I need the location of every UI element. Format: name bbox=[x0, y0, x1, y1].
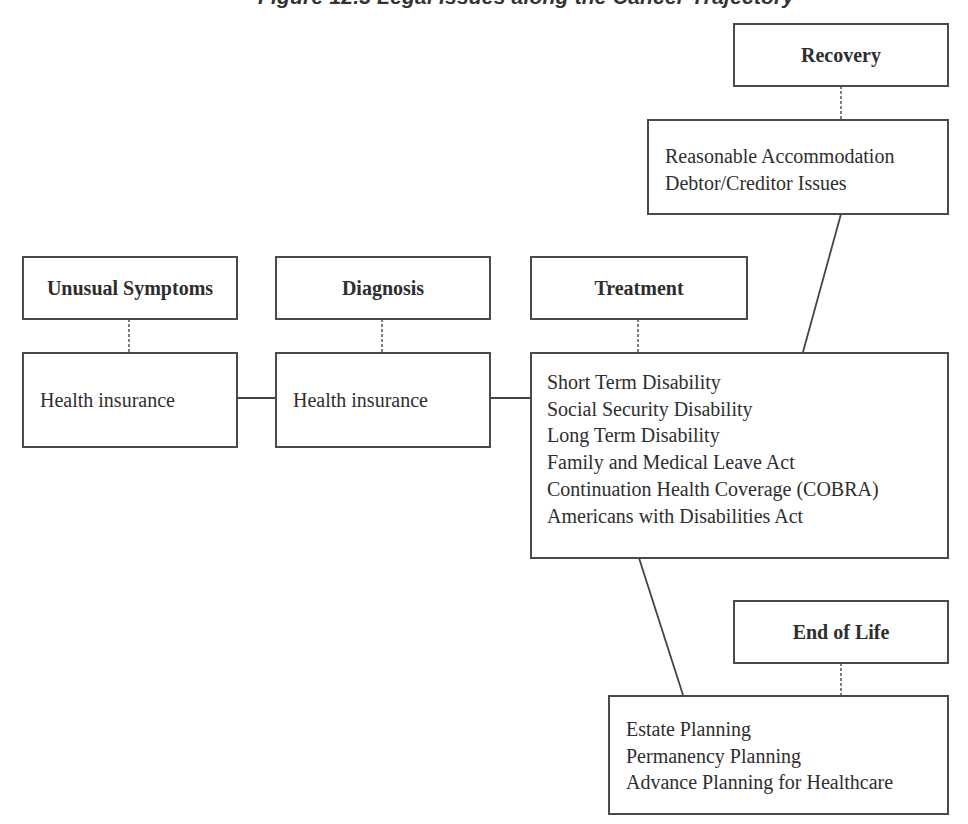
stage-label: Treatment bbox=[594, 277, 683, 300]
issue-box-end-of-life: Estate Planning Permanency Planning Adva… bbox=[608, 695, 949, 815]
issue-box-recovery: Reasonable Accommodation Debtor/Creditor… bbox=[647, 119, 949, 215]
issue-item: Family and Medical Leave Act bbox=[547, 449, 947, 476]
issue-item: Long Term Disability bbox=[547, 422, 947, 449]
issue-box-diagnosis: Health insurance bbox=[275, 352, 491, 448]
stage-box-treatment: Treatment bbox=[530, 256, 748, 320]
stage-box-diagnosis: Diagnosis bbox=[275, 256, 491, 320]
issue-item: Health insurance bbox=[293, 389, 428, 412]
issue-item: Debtor/Creditor Issues bbox=[665, 170, 947, 197]
stage-label: End of Life bbox=[793, 621, 890, 644]
stage-label: Recovery bbox=[801, 44, 881, 67]
stage-box-end-of-life: End of Life bbox=[733, 600, 949, 664]
issue-box-unusual-symptoms: Health insurance bbox=[22, 352, 238, 448]
stage-box-recovery: Recovery bbox=[733, 23, 949, 87]
stage-box-unusual-symptoms: Unusual Symptoms bbox=[22, 256, 238, 320]
issue-item: Reasonable Accommodation bbox=[665, 143, 947, 170]
issue-item: Permanency Planning bbox=[626, 743, 947, 770]
issue-item: Short Term Disability bbox=[547, 369, 947, 396]
issue-item: Social Security Disability bbox=[547, 396, 947, 423]
figure-title: Figure 12.3 Legal Issues along the Cance… bbox=[258, 0, 718, 9]
stage-label: Diagnosis bbox=[342, 277, 424, 300]
issue-item: Continuation Health Coverage (COBRA) bbox=[547, 476, 947, 503]
issue-item: Advance Planning for Healthcare bbox=[626, 769, 947, 796]
issue-item: Estate Planning bbox=[626, 716, 947, 743]
link-treatment-end-of-life bbox=[639, 558, 683, 695]
link-treatment-recovery bbox=[803, 214, 841, 352]
stage-label: Unusual Symptoms bbox=[47, 277, 213, 300]
issue-item: Health insurance bbox=[40, 389, 175, 412]
issue-box-treatment: Short Term Disability Social Security Di… bbox=[530, 352, 949, 559]
issue-item: Americans with Disabilities Act bbox=[547, 503, 947, 530]
